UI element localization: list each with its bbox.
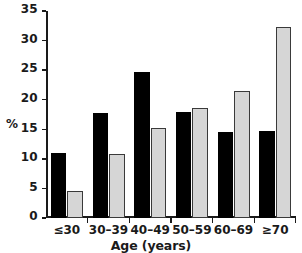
- y-axis-tick-label: 10: [21, 150, 38, 164]
- bar-series-light-2: [151, 128, 167, 218]
- bar-series-dark-0: [51, 153, 67, 218]
- x-axis-title: Age (years): [0, 238, 302, 253]
- y-axis-tick-label: 35: [21, 2, 38, 16]
- y-axis-tick: 5: [42, 188, 47, 189]
- y-axis-tick: 10: [42, 158, 47, 159]
- bar-series-dark-5: [259, 131, 275, 218]
- x-axis-category-label: 40–49: [129, 223, 171, 237]
- plot-area: 05101520253035: [46, 11, 296, 218]
- y-axis-tick-label: 0: [29, 209, 37, 223]
- x-axis-category-label: 30–39: [88, 223, 130, 237]
- bar-series-light-5: [276, 27, 292, 218]
- bar-series-dark-4: [218, 132, 234, 218]
- y-axis-tick: 0: [42, 217, 47, 218]
- y-axis-tick: 25: [42, 69, 47, 70]
- y-axis-tick: 30: [42, 40, 47, 41]
- y-axis-tick-label: 20: [21, 91, 38, 105]
- bar-series-light-0: [67, 191, 83, 218]
- x-axis-category-label: 60–69: [213, 223, 255, 237]
- y-axis-title: %: [6, 117, 18, 131]
- y-axis-tick: 15: [42, 129, 47, 130]
- x-axis-category-label: ≥70: [254, 223, 296, 237]
- bar-series-light-1: [109, 154, 125, 218]
- y-axis-tick-label: 30: [21, 32, 38, 46]
- y-axis-tick: 35: [42, 10, 47, 11]
- bar-series-light-4: [234, 91, 250, 218]
- y-axis-tick: 20: [42, 99, 47, 100]
- bar-series-dark-3: [176, 112, 192, 218]
- x-axis-category-label: ≤30: [46, 223, 88, 237]
- x-axis-category-label: 50–59: [171, 223, 213, 237]
- y-axis-tick-label: 25: [21, 61, 38, 75]
- y-axis-tick-label: 5: [29, 180, 37, 194]
- y-axis-tick-label: 15: [21, 121, 38, 135]
- bar-series-dark-1: [93, 113, 109, 218]
- y-axis-line: [46, 11, 48, 218]
- bar-series-light-3: [192, 108, 208, 218]
- bar-series-dark-2: [134, 72, 150, 218]
